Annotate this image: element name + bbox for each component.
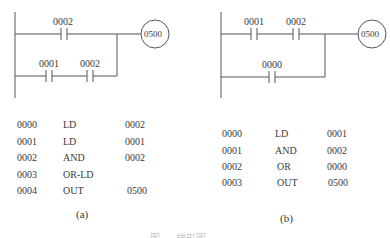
instruction: LD [275,128,288,140]
step: 0002 [17,152,37,164]
step: 0002 [222,161,242,173]
instruction: OUT [277,177,298,189]
contact-label: 0001 [244,16,264,28]
step: 0003 [222,177,242,189]
instruction: AND [63,152,85,164]
coil-label: 0500 [144,28,162,40]
operand: 0001 [327,128,347,140]
operand: 0500 [328,177,348,189]
instruction: OUT [63,185,84,197]
instruction: LD [63,119,76,131]
operand: 0000 [327,161,347,173]
operand: 0002 [125,152,145,164]
ladder-diagrams [0,0,390,238]
step: 0004 [17,185,37,197]
step: 0003 [17,169,37,181]
step: 0000 [222,128,242,140]
operand: 0002 [125,119,145,131]
panel-label-a: (a) [76,208,88,220]
operand: 0001 [125,136,145,148]
contact-label: 0000 [262,59,282,71]
step: 0001 [222,145,242,157]
contact-label: 0002 [286,16,306,28]
step: 0001 [17,136,37,148]
figure-caption: 图 . . 梯形图 . . [150,230,219,238]
panel-label-b: (b) [280,212,293,224]
contact-label: 0002 [53,16,73,28]
coil-label: 0500 [361,28,379,40]
operand: 0002 [327,145,347,157]
instruction: OR [277,161,291,173]
step: 0000 [17,119,37,131]
instruction: AND [275,145,297,157]
contact-label: 0001 [39,58,59,70]
instruction: OR-LD [63,169,94,181]
operand: 0500 [127,185,147,197]
instruction: LD [63,136,76,148]
contact-label: 0002 [80,58,100,70]
